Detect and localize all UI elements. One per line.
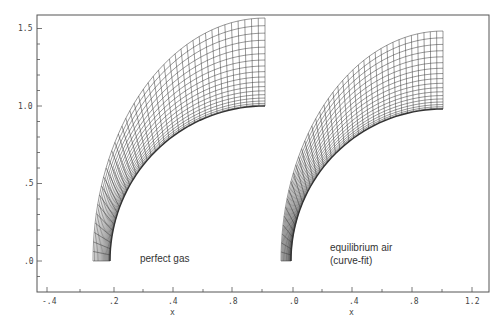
x-axis-label: x [170,308,175,317]
x-axis [47,287,472,292]
x-axis-label: x [349,308,354,317]
x-tick-label: .4 [349,297,359,306]
x-tick-label: -.4 [42,297,57,306]
mesh-figure: 1.5 1.0 .5 .0 -.4 .2 .4 .8 x .0 .4 .8 1.… [0,0,503,328]
x-tick-label: .0 [289,297,299,306]
x-tick-label: .4 [168,297,178,306]
annotation-perfect-gas: perfect gas [140,253,189,264]
y-tick-label: 1.0 [18,102,33,111]
mesh-perfect-gas [93,18,265,261]
y-axis [37,29,42,277]
y-tick-label: .5 [24,179,34,188]
mesh-equilibrium-air [281,31,443,261]
annotation-curve-fit: (curve-fit) [330,255,372,266]
annotation-equilibrium-air: equilibrium air [330,242,393,253]
x-tick-label: .8 [409,297,419,306]
x-tick-label: .8 [228,297,238,306]
x-tick-label: .2 [109,297,119,306]
x-tick-label: 1.2 [465,297,480,306]
y-tick-label: .0 [24,257,34,266]
y-tick-label: 1.5 [18,24,33,33]
